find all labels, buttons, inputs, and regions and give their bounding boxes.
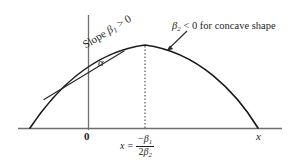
parabola-curve: [30, 45, 258, 128]
concave-annotation: β2 < 0 for concave shape: [172, 21, 276, 33]
quadratic-figure: Slope β1 > 0 β2 < 0 for concave shape α …: [0, 0, 299, 166]
vertex-equation-lhs: x: [120, 141, 124, 151]
vertex-equation: x = −β1 2β2: [120, 134, 154, 158]
vertex-denominator-subscript: 2: [148, 151, 151, 158]
origin-label: 0: [84, 131, 90, 142]
vertex-fraction-denominator: 2β2: [136, 147, 153, 158]
x-axis-label: x: [256, 131, 261, 142]
tangent-line: [44, 51, 124, 100]
concave-annotation-arrow-shaft: [170, 31, 188, 48]
vertex-numerator-subscript: 1: [149, 138, 152, 145]
alpha-label: α: [98, 58, 104, 69]
vertex-fraction: −β1 2β2: [136, 134, 154, 158]
vertex-fraction-numerator: −β1: [136, 134, 154, 145]
concave-annotation-relation: < 0 for concave shape: [181, 20, 276, 31]
vertex-equation-relation: =: [127, 141, 133, 151]
